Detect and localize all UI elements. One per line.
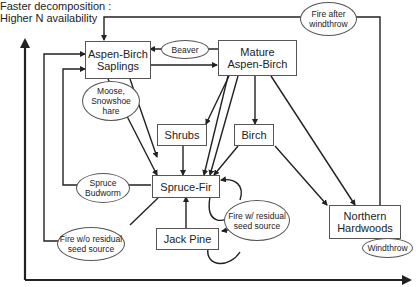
edge-birch-nh [275,146,327,205]
node-spruce-fir: Spruce-Fir [152,175,220,198]
disturbance-windthrow: Windthrow [362,238,413,258]
disturbance-fire-with-residual-seed: Fire w/ residual seed source [224,200,290,241]
disturbance-fire-without-residual-seed: Fire w/o residual seed source [57,227,125,261]
edge-sprucefir-firewo [130,198,158,225]
node-aspen-birch-saplings: Aspen-Birch Saplings [85,41,151,79]
edge-mature-nh [271,76,355,205]
node-shrubs: Shrubs [157,124,207,146]
node-birch: Birch [234,124,274,146]
disturbance-spruce-budworm: Spruce Budworm [76,173,130,203]
node-mature-aspen-birch: Mature Aspen-Birch [218,40,297,76]
disturbance-beaver: Beaver [161,40,209,59]
disturbance-moose-snowshoe-hare: Moose, Snowshoe hare [82,81,140,121]
node-northern-hardwoods: Northern Hardwoods [329,205,401,239]
node-jack-pine: Jack Pine [156,228,219,250]
disturbance-fire-after-windthrow: Fire after windthrow [300,2,357,36]
